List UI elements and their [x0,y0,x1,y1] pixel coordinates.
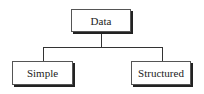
connector-root-vertical [101,32,102,47]
node-simple-label: Simple [27,67,58,79]
tree-diagram: Data Simple Structured [0,0,204,94]
node-structured: Structured [131,61,191,85]
connector-right-vertical [162,47,163,61]
node-structured-label: Structured [138,67,184,79]
node-simple: Simple [12,61,73,85]
node-data: Data [71,9,131,32]
connector-left-vertical [43,47,44,61]
connector-horizontal [43,47,163,48]
node-data-label: Data [91,15,112,27]
